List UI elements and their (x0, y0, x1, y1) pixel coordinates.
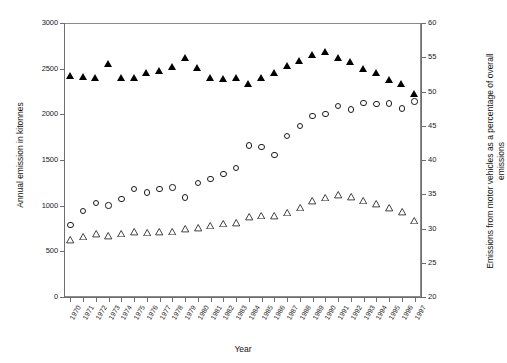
y-axis-right-tick (422, 263, 426, 264)
data-point-filled-triangle (385, 76, 393, 83)
data-point-filled-triangle (142, 69, 150, 76)
x-axis-tick (274, 298, 275, 302)
x-axis-tick (415, 298, 416, 302)
data-point-open-triangle (130, 228, 138, 235)
x-axis-tick (351, 298, 352, 302)
data-point-open-circle (322, 111, 328, 117)
data-point-open-circle (144, 189, 150, 195)
y-axis-left-tick (60, 69, 64, 70)
y-axis-left-line (64, 23, 65, 298)
y-axis-left-tick (60, 297, 64, 298)
y-axis-right-tick-label: 55 (428, 52, 436, 61)
y-axis-right-tick-label: 35 (428, 189, 436, 198)
data-point-filled-triangle (155, 67, 163, 74)
y-axis-left-tick-label: 0 (0, 292, 58, 301)
y-axis-left-tick (60, 206, 64, 207)
data-point-open-triangle (359, 197, 367, 204)
x-axis-tick (147, 298, 148, 302)
data-point-filled-triangle (397, 80, 405, 87)
x-axis-tick (70, 298, 71, 302)
y-axis-right-title: Emissions from motor vehicles as a perce… (485, 46, 507, 276)
data-point-open-circle (169, 184, 175, 190)
data-point-filled-triangle (346, 58, 354, 65)
data-point-filled-triangle (168, 63, 176, 70)
y-axis-right-tick (422, 23, 426, 24)
y-axis-right-tick (422, 57, 426, 58)
data-point-open-triangle (398, 208, 406, 215)
data-point-open-circle (360, 100, 366, 106)
y-axis-right-tick-label: 30 (428, 224, 436, 233)
data-point-open-circle (93, 200, 99, 206)
data-point-open-triangle (334, 191, 342, 198)
y-axis-right-tick (422, 126, 426, 127)
y-axis-right-tick-label: 40 (428, 155, 436, 164)
data-point-filled-triangle (244, 80, 252, 87)
x-axis-tick (262, 298, 263, 302)
data-point-open-triangle (257, 212, 265, 219)
data-point-open-triangle (410, 217, 418, 224)
data-point-filled-triangle (334, 54, 342, 61)
data-point-open-triangle (206, 222, 214, 229)
data-point-open-circle (105, 202, 111, 208)
x-axis-tick (300, 298, 301, 302)
x-axis-tick (185, 298, 186, 302)
data-point-open-circle (220, 171, 226, 177)
data-point-filled-triangle (104, 60, 112, 67)
data-point-open-triangle (181, 225, 189, 232)
data-point-open-circle (271, 152, 277, 158)
data-point-open-triangle (283, 209, 291, 216)
data-point-filled-triangle (308, 51, 316, 58)
y-axis-left-tick-label: 1000 (0, 201, 58, 210)
data-point-filled-triangle (321, 48, 329, 55)
data-point-open-triangle (155, 228, 163, 235)
x-axis-tick (121, 298, 122, 302)
data-point-open-triangle (296, 204, 304, 211)
x-axis-tick (313, 298, 314, 302)
data-point-filled-triangle (130, 74, 138, 81)
data-point-open-circle (156, 186, 162, 192)
x-axis-tick (83, 298, 84, 302)
y-axis-left-tick-label: 3000 (0, 18, 58, 27)
plot-area (64, 23, 421, 297)
y-axis-right-tick (422, 92, 426, 93)
data-point-open-circle (246, 142, 252, 148)
y-axis-left-tick (60, 251, 64, 252)
data-point-open-circle (386, 100, 392, 106)
data-point-open-circle (195, 180, 201, 186)
y-axis-right-tick-label: 20 (428, 292, 436, 301)
data-point-open-triangle (347, 193, 355, 200)
x-axis-tick (134, 298, 135, 302)
data-point-filled-triangle (66, 72, 74, 79)
data-point-filled-triangle (295, 57, 303, 64)
data-point-filled-triangle (79, 73, 87, 80)
data-point-open-circle (67, 222, 73, 228)
x-axis-tick (389, 298, 390, 302)
data-point-open-circle (118, 196, 124, 202)
data-point-filled-triangle (219, 75, 227, 82)
data-point-open-triangle (219, 220, 227, 227)
data-point-open-triangle (308, 197, 316, 204)
data-point-filled-triangle (372, 69, 380, 76)
y-axis-right-tick-label: 50 (428, 87, 436, 96)
y-axis-left-tick-label: 2500 (0, 64, 58, 73)
y-axis-right-tick-label: 45 (428, 121, 436, 130)
y-axis-right-tick (422, 229, 426, 230)
data-point-open-triangle (66, 236, 74, 243)
data-point-open-triangle (79, 233, 87, 240)
data-point-open-triangle (104, 232, 112, 239)
x-axis-tick (211, 298, 212, 302)
data-point-open-circle (411, 98, 417, 104)
x-axis-tick (402, 298, 403, 302)
data-point-open-triangle (321, 194, 329, 201)
data-point-open-triangle (117, 230, 125, 237)
data-point-filled-triangle (206, 74, 214, 81)
x-axis-tick (172, 298, 173, 302)
x-axis-tick (96, 298, 97, 302)
data-point-open-triangle (143, 229, 151, 236)
data-point-filled-triangle (91, 74, 99, 81)
x-axis-tick (236, 298, 237, 302)
data-point-filled-triangle (410, 90, 418, 97)
data-point-open-circle (348, 106, 354, 112)
y-axis-left-title: Annual emission in kitonnes (15, 55, 25, 255)
